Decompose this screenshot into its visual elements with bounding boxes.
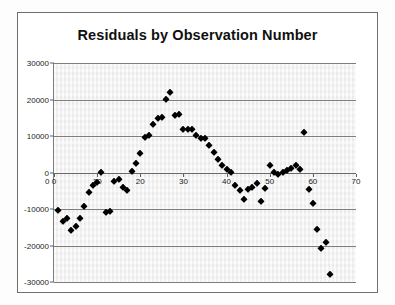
x-tick-label-0: 0 xyxy=(52,177,56,186)
x-axis-origin-label: 0 xyxy=(45,177,49,186)
y-tick-label--10000: -10000 xyxy=(24,205,49,214)
x-tick-mark-0 xyxy=(54,174,55,177)
data-point xyxy=(301,129,307,135)
data-point xyxy=(77,215,83,221)
x-tick-label-30: 30 xyxy=(179,177,188,186)
data-point xyxy=(189,126,195,132)
x-tick-mark-60 xyxy=(313,174,314,177)
data-point xyxy=(167,89,173,95)
gridline--10000 xyxy=(54,209,356,210)
data-point xyxy=(124,186,130,192)
y-tick-label-20000: 20000 xyxy=(27,95,49,104)
data-point xyxy=(137,150,143,156)
y-tick-mark-20000 xyxy=(50,99,54,100)
data-point xyxy=(150,120,156,126)
data-point xyxy=(206,142,212,148)
data-point xyxy=(85,189,91,195)
x-tick-mark-50 xyxy=(270,174,271,177)
data-point xyxy=(323,239,329,245)
x-tick-mark-40 xyxy=(227,174,228,177)
y-tick-mark--10000 xyxy=(50,209,54,210)
x-tick-mark-20 xyxy=(140,174,141,177)
gridline-30000 xyxy=(54,63,356,64)
data-point xyxy=(55,207,61,213)
chart-title: Residuals by Observation Number xyxy=(18,27,377,43)
gridline-20000 xyxy=(54,100,356,101)
figure-card: Residuals by Observation Number 30000200… xyxy=(17,12,378,293)
data-point xyxy=(210,148,216,154)
data-point xyxy=(305,186,311,192)
data-point xyxy=(297,166,303,172)
x-tick-mark-30 xyxy=(183,174,184,177)
data-point xyxy=(327,270,333,276)
x-tick-label-50: 50 xyxy=(265,177,274,186)
data-point xyxy=(98,169,104,175)
data-point xyxy=(241,196,247,202)
y-tick-label--20000: -20000 xyxy=(24,241,49,250)
y-tick-mark-30000 xyxy=(50,63,54,64)
data-point xyxy=(163,96,169,102)
gridline--20000 xyxy=(54,246,356,247)
data-point xyxy=(266,162,272,168)
x-tick-label-20: 20 xyxy=(136,177,145,186)
y-tick-label--30000: -30000 xyxy=(24,278,49,287)
data-point xyxy=(215,155,221,161)
data-point xyxy=(262,185,268,191)
data-point xyxy=(228,169,234,175)
x-tick-label-70: 70 xyxy=(352,177,361,186)
data-point xyxy=(314,225,320,231)
x-tick-mark-70 xyxy=(356,174,357,177)
data-point xyxy=(133,160,139,166)
x-tick-label-40: 40 xyxy=(222,177,231,186)
y-tick-label-30000: 30000 xyxy=(27,59,49,68)
plot-area: 3000020000100000-10000-20000-30000 01020… xyxy=(53,63,356,282)
y-tick-mark-10000 xyxy=(50,136,54,137)
x-tick-mark-10 xyxy=(97,174,98,177)
y-tick-label-10000: 10000 xyxy=(27,132,49,141)
data-point xyxy=(258,197,264,203)
y-tick-mark--30000 xyxy=(50,282,54,283)
data-point xyxy=(176,111,182,117)
data-point xyxy=(236,186,242,192)
y-tick-mark--20000 xyxy=(50,245,54,246)
gridline--30000 xyxy=(54,282,356,283)
x-tick-label-60: 60 xyxy=(308,177,317,186)
data-point xyxy=(310,200,316,206)
